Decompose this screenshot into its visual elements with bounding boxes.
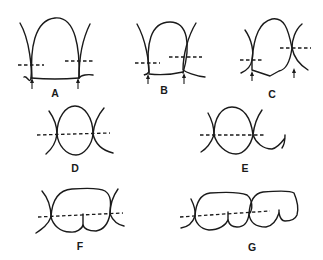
panel-g: G (180, 191, 298, 253)
tooth-base-line (149, 72, 183, 75)
panel-label-g: G (248, 241, 256, 253)
contact-arrow-icon (76, 78, 80, 89)
panel-label-b: B (160, 84, 168, 96)
adjacent-tooth-right (292, 24, 308, 70)
adjacent-tooth-left (137, 24, 149, 75)
adjacent-tooth-left (20, 23, 31, 81)
adjacent-tooth-right (110, 189, 124, 226)
panel-f: F (36, 188, 124, 252)
panel-a: A (18, 18, 95, 99)
tooth-crown-outline (51, 188, 111, 232)
adjacent-tooth-left (36, 191, 51, 233)
tooth-base-line (31, 78, 79, 79)
adjacent-tooth-left (241, 30, 253, 73)
adjacent-tooth-left (181, 199, 195, 228)
tooth-crown-outline-first (195, 192, 252, 230)
panel-label-f: F (77, 240, 84, 252)
occlusal-plane-dashed (37, 133, 110, 135)
panel-e: E (200, 107, 285, 174)
adjacent-tooth-right (253, 110, 285, 149)
occlusal-plane-dashed (180, 211, 270, 217)
tooth-crown-outline (148, 22, 187, 73)
contact-arrow-icon (182, 73, 186, 84)
panel-label-d: D (71, 162, 79, 174)
adjacent-tooth-right (79, 24, 93, 78)
adjacent-tooth-right (183, 23, 205, 77)
contact-arrow-icon (250, 71, 254, 81)
panel-label-c: C (268, 88, 276, 100)
panel-d: D (37, 106, 113, 174)
panel-label-e: E (241, 162, 248, 174)
contact-arrow-icon (292, 68, 296, 78)
tooth-crown-outline-second (249, 191, 298, 227)
contact-arrow-icon (146, 74, 150, 84)
panel-b: B (135, 22, 205, 96)
tooth-contact-diagram: A B C D (0, 0, 323, 260)
adjacent-tooth-left (46, 111, 57, 154)
panel-label-a: A (51, 87, 59, 99)
tooth-crown-outline (32, 18, 80, 78)
adjacent-tooth-right (93, 108, 113, 153)
tooth-crown-outline (57, 106, 93, 155)
adjacent-tooth-left (201, 113, 214, 152)
panel-c: C (240, 19, 311, 100)
tooth-crown-outline (214, 107, 253, 154)
